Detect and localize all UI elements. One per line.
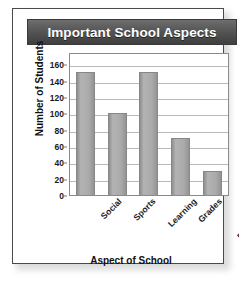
x-tick-label: Preparing forthe Future bbox=[236, 197, 239, 249]
page-title: Important School Aspects bbox=[47, 25, 216, 40]
y-tick-label: 120 bbox=[50, 93, 64, 103]
y-tick-label: 60 bbox=[55, 142, 64, 152]
y-tick-mark bbox=[64, 163, 67, 164]
x-tick-label: Social bbox=[99, 197, 124, 222]
y-tick-mark bbox=[64, 81, 67, 82]
x-tick-label: Learning bbox=[167, 197, 199, 229]
x-tick-label-line: Sports bbox=[131, 196, 157, 222]
x-axis-title: Aspect of School bbox=[25, 255, 237, 266]
bar bbox=[108, 113, 127, 195]
plot-area bbox=[69, 53, 229, 196]
y-tick-mark bbox=[64, 179, 67, 180]
y-tick-mark bbox=[64, 146, 67, 147]
x-tick-label: Sports bbox=[132, 197, 158, 223]
x-tick-label-line: Preparing for bbox=[235, 196, 239, 241]
y-tick-mark bbox=[64, 114, 67, 115]
y-tick-label: 160 bbox=[50, 60, 64, 70]
bar-series bbox=[70, 54, 228, 195]
x-axis-tick-labels: SocialSportsLearningGradesPreparing fort… bbox=[69, 197, 229, 255]
y-tick-label: 80 bbox=[55, 126, 64, 136]
y-tick-label: 100 bbox=[50, 109, 64, 119]
bar bbox=[76, 72, 95, 195]
bar bbox=[203, 171, 222, 196]
chart-screenshot: Important School Aspects Number of Stude… bbox=[0, 0, 239, 284]
y-tick-label: 140 bbox=[50, 77, 64, 87]
y-axis-ticks: 020406080100120140160 bbox=[41, 53, 67, 196]
chart-title-banner: Important School Aspects bbox=[27, 19, 237, 45]
bar bbox=[171, 138, 190, 195]
y-tick-label: 20 bbox=[55, 175, 64, 185]
y-tick-mark bbox=[64, 97, 67, 98]
y-tick-mark bbox=[64, 130, 67, 131]
y-tick-mark bbox=[64, 196, 67, 197]
y-tick-label: 40 bbox=[55, 158, 64, 168]
x-tick-label-line: Learning bbox=[166, 196, 199, 229]
bar-chart: Number of Students 020406080100120140160… bbox=[25, 49, 237, 273]
x-tick-label-line: Grades bbox=[196, 196, 224, 224]
bar bbox=[139, 72, 158, 195]
y-tick-mark bbox=[64, 65, 67, 66]
x-tick-label-line: Social bbox=[99, 196, 124, 221]
x-tick-label: Grades bbox=[197, 197, 225, 225]
chart-card: Important School Aspects Number of Stude… bbox=[12, 8, 224, 264]
